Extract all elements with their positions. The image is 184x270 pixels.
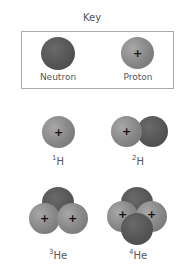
isotope-label-h1: 1H <box>38 156 78 167</box>
neutron-label: Neutron <box>28 72 88 82</box>
element-symbol: H <box>136 156 144 167</box>
isotope-label-he3: 3He <box>38 250 78 261</box>
element-symbol: He <box>53 250 67 261</box>
h1-proton: + <box>42 116 75 148</box>
isotope-label-h2: 2H <box>118 156 158 167</box>
plus-icon: + <box>57 203 88 234</box>
mass-number: 1 <box>52 154 56 162</box>
he3-proton-2: + <box>57 203 88 234</box>
element-symbol: He <box>133 250 147 261</box>
mass-number: 2 <box>132 154 136 162</box>
mass-number: 3 <box>49 248 53 256</box>
proton-icon: + <box>121 37 154 69</box>
h2-proton: + <box>111 116 142 147</box>
isotope-label-he4: 4He <box>118 250 158 261</box>
plus-icon: + <box>111 116 142 147</box>
neutron-icon <box>41 37 75 70</box>
plus-icon: + <box>29 203 60 234</box>
element-symbol: H <box>56 156 64 167</box>
plus-icon: + <box>121 37 154 69</box>
he3-proton-1: + <box>29 203 60 234</box>
key-title: Key <box>0 12 184 23</box>
he4-neutron-2 <box>121 213 153 245</box>
mass-number: 4 <box>129 248 133 256</box>
proton-label: Proton <box>108 72 168 82</box>
plus-icon: + <box>42 116 75 148</box>
